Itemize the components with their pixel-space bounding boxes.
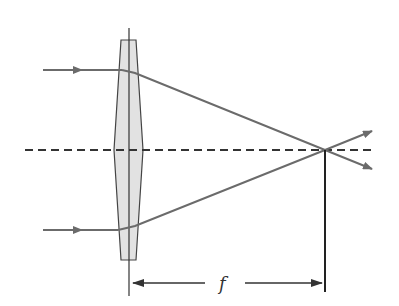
refracted-ray-bottom <box>118 131 372 230</box>
refracted-ray-top <box>122 70 372 169</box>
focal-length-label: f <box>217 273 229 294</box>
lens-diagram: f <box>0 0 399 306</box>
